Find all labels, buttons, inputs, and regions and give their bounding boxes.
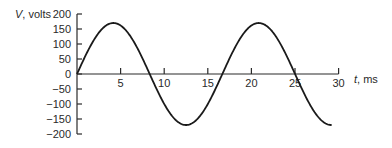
y-tick-label: 50 (59, 53, 71, 65)
x-tick-label: 5 (118, 77, 124, 89)
y-tick-label: 150 (53, 23, 71, 35)
y-tick-label: −150 (46, 113, 71, 125)
y-tick-label: 0 (65, 68, 71, 80)
y-tick-label: −200 (46, 128, 71, 140)
y-axis: 200150100500−50−100−150−200 (46, 8, 82, 140)
voltage-time-chart: 200150100500−50−100−150−200 51015202530 … (0, 0, 392, 148)
y-tick-label: −100 (46, 98, 71, 110)
y-tick-label: −50 (52, 83, 71, 95)
y-tick-label: 100 (53, 38, 71, 50)
x-tick-label: 15 (202, 77, 214, 89)
y-tick-label: 200 (53, 8, 71, 20)
x-axis: 51015202530 (77, 68, 345, 89)
x-tick-label: 10 (158, 77, 170, 89)
y-axis-label: V, volts (15, 8, 52, 20)
x-axis-label: t, ms (354, 73, 378, 85)
x-tick-label: 20 (245, 77, 257, 89)
x-tick-label: 30 (332, 77, 344, 89)
